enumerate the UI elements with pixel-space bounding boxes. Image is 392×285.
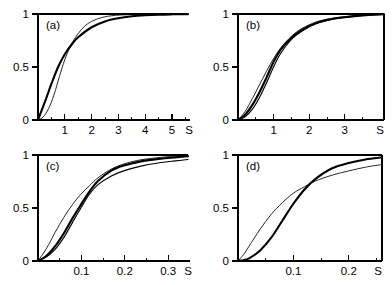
panel-a-xlabel-1: 1 <box>62 124 68 136</box>
panel-d-ylabel-1: 1 <box>223 149 229 161</box>
panel-d-curve-thin <box>238 165 382 261</box>
panel-c-xlabel-02: 0.2 <box>117 265 133 277</box>
panel-c-svg: 1 0.5 0 0.1 0.2 0.3 S (c) <box>0 143 196 285</box>
panel-d-ylabel-0: 0 <box>223 255 229 267</box>
panel-a-ylabel-05: 0.5 <box>13 61 29 73</box>
panel-c-label: (c) <box>46 160 60 172</box>
panel-b-xlabel-1: 1 <box>270 124 276 136</box>
chart-panel-a: 1 0.5 0 1 2 3 4 5 S (a) <box>0 0 196 142</box>
panel-a-curves <box>38 14 188 120</box>
panel-b-x-axis-label: S <box>376 124 384 136</box>
panel-b-ylabel-05: 0.5 <box>213 61 229 73</box>
chart-panel-c: 1 0.5 0 0.1 0.2 0.3 S (c) <box>0 143 196 285</box>
panel-a-ylabel-1: 1 <box>23 8 29 20</box>
panel-d-svg: 1 0.5 0 0.1 0.2 S (d) <box>196 143 392 285</box>
panel-a-xlabel-4: 4 <box>142 124 149 136</box>
panel-a-xlabel-2: 2 <box>88 124 94 136</box>
panel-c-ylabel-05: 0.5 <box>13 202 29 214</box>
panel-c-curve-steep-thin <box>38 155 188 261</box>
panel-c-ylabel-0: 0 <box>23 255 29 267</box>
panel-a-label: (a) <box>46 19 60 31</box>
panel-a-curve-thick <box>38 14 188 120</box>
panel-b-ylabel-1: 1 <box>223 8 229 20</box>
panel-c-xlabel-01: 0.1 <box>73 265 89 277</box>
panel-b-xlabel-2: 2 <box>306 124 312 136</box>
panel-a-xlabel-3: 3 <box>115 124 121 136</box>
panel-d-xlabel-02: 0.2 <box>341 265 357 277</box>
panel-d-label: (d) <box>246 160 260 172</box>
panel-b-xlabel-3: 3 <box>342 124 348 136</box>
panel-d-ylabel-05: 0.5 <box>213 202 229 214</box>
panel-d-curve-thick <box>238 157 382 261</box>
figure-container: 1 0.5 0 1 2 3 4 5 S (a) <box>0 0 392 285</box>
chart-panel-b: 1 0.5 0 1 2 3 S (b) <box>196 0 392 142</box>
panel-b-svg: 1 0.5 0 1 2 3 S (b) <box>196 0 392 142</box>
panel-a-curve-thin <box>38 14 188 120</box>
panel-a-x-axis-label: S <box>185 124 193 136</box>
panel-b-label: (b) <box>246 19 260 31</box>
panel-b-ylabel-0: 0 <box>223 114 229 126</box>
panel-c-ylabel-1: 1 <box>23 149 29 161</box>
panel-c-xlabel-03: 0.3 <box>160 265 176 277</box>
panel-d-x-axis-label: S <box>374 265 382 277</box>
chart-panel-d: 1 0.5 0 0.1 0.2 S (d) <box>196 143 392 285</box>
panel-c-curve-thick <box>38 156 188 261</box>
panel-a-ylabel-0: 0 <box>23 114 29 126</box>
panel-c-x-axis-label: S <box>184 265 192 277</box>
panel-c-curve-shallow-thin <box>38 159 188 261</box>
panel-a-svg: 1 0.5 0 1 2 3 4 5 S (a) <box>0 0 196 142</box>
panel-c-curves <box>38 155 188 261</box>
panel-d-curves <box>238 157 382 261</box>
panel-d-xlabel-01: 0.1 <box>285 265 301 277</box>
panel-a-xlabel-5: 5 <box>169 124 175 136</box>
